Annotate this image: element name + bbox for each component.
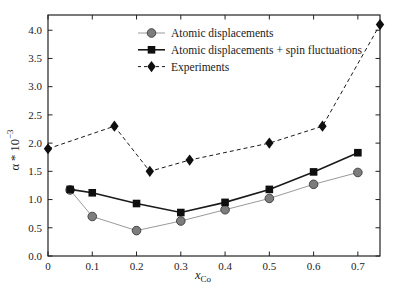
series-marker [132, 226, 141, 235]
legend-marker [148, 46, 156, 54]
x-tick-label: 0.4 [218, 260, 232, 272]
y-tick-label: 1.0 [28, 193, 42, 205]
x-axis-label-sub: Co [201, 274, 212, 284]
series-marker [133, 200, 141, 208]
series-marker [177, 217, 186, 226]
series-marker [110, 121, 118, 132]
series-marker [310, 168, 318, 176]
y-axis-label-exponent: −3 [5, 129, 15, 139]
y-tick-label: 2.5 [28, 109, 42, 121]
y-tick-label: 1.5 [28, 165, 42, 177]
series-marker [376, 19, 384, 30]
legend-marker [147, 29, 156, 38]
y-tick-label: 2.0 [28, 137, 42, 149]
series-marker [309, 180, 318, 189]
x-tick-label: 0.2 [130, 260, 144, 272]
y-tick-label: 4.0 [28, 24, 42, 36]
chart-canvas: 00.10.20.30.40.50.60.70.00.51.01.52.02.5… [0, 0, 394, 300]
series-marker [88, 212, 97, 221]
x-tick-label: 0 [45, 260, 51, 272]
x-tick-label: 0.1 [85, 260, 99, 272]
series-marker [44, 143, 52, 154]
legend-label: Experiments [171, 61, 230, 74]
legend-label: Atomic displacements [171, 27, 274, 40]
x-tick-label: 0.5 [262, 260, 276, 272]
y-tick-label: 0.5 [28, 222, 42, 234]
x-tick-label: 0.6 [307, 260, 321, 272]
y-tick-label: 0.0 [28, 250, 42, 262]
x-tick-label: 0.3 [174, 260, 188, 272]
series-marker [318, 121, 326, 132]
x-axis-label: xCo [195, 268, 211, 285]
y-axis-label-base: α * 10 [8, 139, 22, 171]
series-marker [266, 186, 274, 194]
figure: 00.10.20.30.40.50.60.70.00.51.01.52.02.5… [0, 0, 394, 300]
series-marker [177, 209, 185, 217]
legend-label: Atomic displacements + spin fluctuations [171, 44, 363, 57]
y-tick-label: 3.0 [28, 80, 42, 92]
series-marker [66, 186, 74, 194]
series-marker [354, 168, 363, 177]
series-marker [265, 138, 273, 149]
series-marker [221, 205, 230, 214]
series-marker [185, 154, 193, 165]
series-marker [265, 194, 274, 203]
x-tick-label: 0.7 [351, 260, 365, 272]
legend-marker [147, 61, 155, 72]
y-axis-label: α * 10−3 [5, 129, 22, 170]
y-tick-label: 3.5 [28, 52, 42, 64]
series-marker [354, 149, 362, 157]
series-marker [88, 189, 96, 197]
series-marker [221, 199, 229, 207]
